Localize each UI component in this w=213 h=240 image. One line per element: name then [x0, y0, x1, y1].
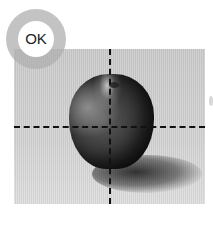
apple-photo [14, 49, 205, 204]
ok-label: OK [18, 21, 54, 57]
horizontal-guide-line [14, 126, 205, 128]
edge-dot [209, 96, 213, 106]
apple-image [69, 74, 154, 169]
